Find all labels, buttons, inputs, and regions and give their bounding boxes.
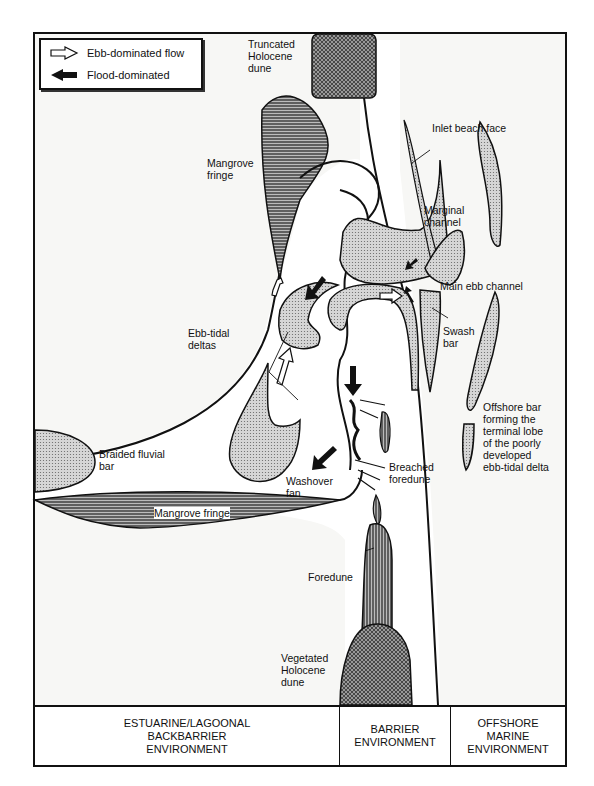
- legend-label-ebb: Ebb-dominated flow: [87, 47, 184, 59]
- label-washover-fan: Washover fan: [286, 475, 333, 499]
- solid-arrow-left-icon: [49, 68, 79, 82]
- label-offshore-bar: Offshore bar forming the terminal lobe o…: [483, 401, 549, 473]
- zone-offshore: OFFSHORE MARINE ENVIRONMENT: [451, 707, 565, 765]
- foredune: [362, 524, 392, 632]
- legend-label-flood: Flood-dominated: [87, 69, 170, 81]
- label-main-ebb-channel: Main ebb channel: [440, 280, 523, 292]
- truncated-dune: [312, 34, 376, 98]
- label-breached-foredune: Breached foredune: [389, 461, 434, 485]
- hollow-arrow-right-icon: [49, 46, 79, 60]
- label-braided-fluvial-bar: Braided fluvial bar: [99, 448, 165, 472]
- zone-barrier: BARRIER ENVIRONMENT: [340, 707, 451, 765]
- label-vegetated-dune: Vegetated Holocene dune: [281, 652, 328, 688]
- label-swash-bar: Swash bar: [443, 325, 475, 349]
- offshore-bar-3: [463, 424, 474, 470]
- legend: Ebb-dominated flow Flood-dominated: [39, 38, 203, 90]
- label-mangrove-fringe-top: Mangrove fringe: [207, 157, 254, 181]
- environment-zones: ESTUARINE/LAGOONAL BACKBARRIER ENVIRONME…: [33, 705, 567, 767]
- legend-item-flood: Flood-dominated: [49, 68, 170, 82]
- label-truncated-dune: Truncated Holocene dune: [248, 38, 295, 74]
- offshore-bar-1: [478, 122, 502, 246]
- legend-item-ebb: Ebb-dominated flow: [49, 46, 184, 60]
- label-ebb-tidal-deltas: Ebb-tidal deltas: [188, 327, 229, 351]
- breached-foredune-1: [380, 412, 390, 453]
- label-foredune: Foredune: [308, 571, 353, 583]
- swash-bar: [420, 290, 440, 392]
- label-marginal-channel: Marginal channel: [424, 204, 464, 228]
- zone-estuarine: ESTUARINE/LAGOONAL BACKBARRIER ENVIRONME…: [35, 707, 340, 765]
- label-inlet-beach-face: Inlet beach face: [432, 122, 506, 134]
- offshore-bar-2: [467, 292, 499, 410]
- label-mangrove-fringe-bottom: Mangrove fringe: [154, 507, 230, 519]
